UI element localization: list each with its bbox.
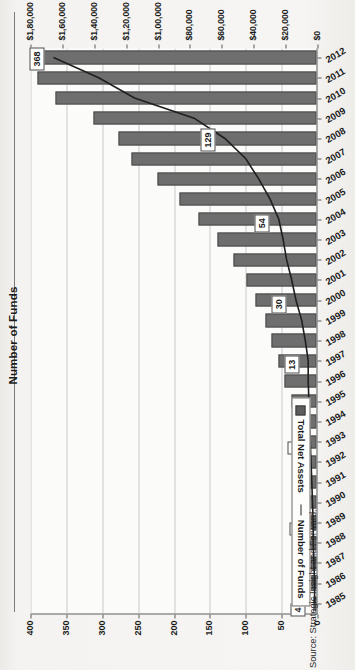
funds-axis-tick-label: 200	[168, 620, 178, 648]
x-tick-label: 2012	[323, 44, 347, 64]
assets-axis-tick	[126, 44, 127, 48]
rotated-chart-wrapper: Number of Funds 198519861987198819891990…	[0, 0, 355, 670]
x-tick	[317, 98, 321, 99]
assets-axis-tick	[253, 44, 254, 48]
x-tick-label: 2009	[323, 105, 347, 125]
x-tick	[317, 57, 321, 58]
funds-axis-tick	[102, 614, 103, 618]
assets-axis-tick-label: $1,60,000	[56, 2, 66, 40]
assets-axis-tick-label: $1,00,000	[152, 2, 162, 40]
funds-axis-tick	[281, 614, 282, 618]
x-tick	[317, 300, 321, 301]
funds-axis-tick	[30, 614, 31, 618]
x-tick-label: 1996	[323, 367, 347, 387]
data-label: 13	[284, 355, 299, 373]
x-tick-label: 1991	[323, 469, 347, 489]
x-tick	[317, 381, 321, 382]
x-tick-label: 2007	[323, 145, 347, 165]
assets-axis-tick-label: $20,000	[279, 9, 289, 40]
funds-axis-tick	[245, 614, 246, 618]
legend-bar-swatch-icon	[296, 405, 306, 415]
number-of-funds-line	[30, 48, 316, 613]
x-tick	[317, 219, 321, 220]
x-tick-label: 1995	[323, 388, 347, 408]
assets-axis-tick-label: $60,000	[215, 9, 225, 40]
assets-axis-tick	[94, 44, 95, 48]
funds-axis-tick-label: 350	[60, 620, 70, 648]
source-note-holder: Source: Strategic Insight and Forward.	[318, 498, 350, 668]
x-tick-label: 2004	[323, 206, 347, 226]
assets-axis-tick	[158, 44, 159, 48]
assets-axis-tick	[317, 44, 318, 48]
x-tick	[317, 239, 321, 240]
x-tick-label: 2006	[323, 165, 347, 185]
assets-axis-tick	[189, 44, 190, 48]
x-tick	[317, 279, 321, 280]
legend-item-line: Number of Funds	[295, 504, 306, 598]
x-tick	[317, 421, 321, 422]
chart-title: Number of Funds	[6, 0, 18, 670]
x-tick-label: 2008	[323, 125, 347, 145]
assets-axis-tick-label: $1,20,000	[120, 2, 130, 40]
funds-axis-tick	[174, 614, 175, 618]
assets-axis-tick-label: $80,000	[183, 9, 193, 40]
data-label: 54	[254, 214, 269, 232]
assets-axis-tick-label: $40,000	[247, 9, 257, 40]
assets-axis-tick	[62, 44, 63, 48]
funds-axis-tick-label: 400	[24, 620, 34, 648]
x-tick-label: 2003	[323, 226, 347, 246]
x-tick-label: 2000	[323, 287, 347, 307]
x-tick	[317, 482, 321, 483]
funds-axis-tick	[138, 614, 139, 618]
funds-axis-tick	[209, 614, 210, 618]
data-label: 368	[29, 47, 44, 70]
assets-axis-tick-label: $1,80,000	[24, 2, 34, 40]
x-tick-label: 2001	[323, 266, 347, 286]
funds-axis-tick-label: 150	[203, 620, 213, 648]
funds-axis-tick-label: 100	[239, 620, 249, 648]
source-note: Source: Strategic Insight and Forward.	[308, 509, 318, 668]
x-tick-label: 1994	[323, 408, 347, 428]
x-tick	[317, 138, 321, 139]
x-tick	[317, 461, 321, 462]
x-tick	[317, 441, 321, 442]
x-tick-label: 1999	[323, 307, 347, 327]
x-tick-label: 2010	[323, 84, 347, 104]
legend-item-bar: Total Net Assets	[295, 405, 306, 492]
x-tick-label: 2011	[323, 65, 346, 85]
plot-area	[30, 48, 317, 614]
funds-axis-tick	[66, 614, 67, 618]
chart-canvas: Number of Funds 198519861987198819891990…	[0, 0, 355, 670]
plot-inner	[30, 48, 316, 613]
funds-axis-tick-label: 250	[132, 620, 142, 648]
x-tick-label: 1997	[323, 347, 347, 367]
x-tick	[317, 340, 321, 341]
x-tick	[317, 199, 321, 200]
x-tick-label: 1998	[323, 327, 347, 347]
assets-axis-tick	[221, 44, 222, 48]
legend-line-swatch-icon	[300, 504, 301, 515]
assets-axis-tick-label: $1,40,000	[88, 2, 98, 40]
assets-axis-tick	[285, 44, 286, 48]
legend-line-label: Number of Funds	[295, 519, 306, 598]
data-label: 30	[271, 295, 286, 313]
x-tick	[317, 401, 321, 402]
x-tick	[317, 360, 321, 361]
x-tick-label: 1992	[323, 448, 347, 468]
funds-axis-tick-label: 50	[275, 620, 285, 648]
funds-axis-tick-label: 300	[96, 620, 106, 648]
legend-bar-label: Total Net Assets	[295, 419, 306, 492]
x-tick	[317, 320, 321, 321]
x-tick-label: 2005	[323, 186, 347, 206]
x-tick	[317, 77, 321, 78]
assets-axis-tick-label: $0	[311, 30, 321, 40]
x-tick	[317, 118, 321, 119]
x-tick	[317, 259, 321, 260]
x-tick-label: 1993	[323, 428, 347, 448]
x-tick	[317, 178, 321, 179]
data-label: 129	[200, 128, 215, 151]
x-tick	[317, 158, 321, 159]
x-tick-label: 2002	[323, 246, 347, 266]
